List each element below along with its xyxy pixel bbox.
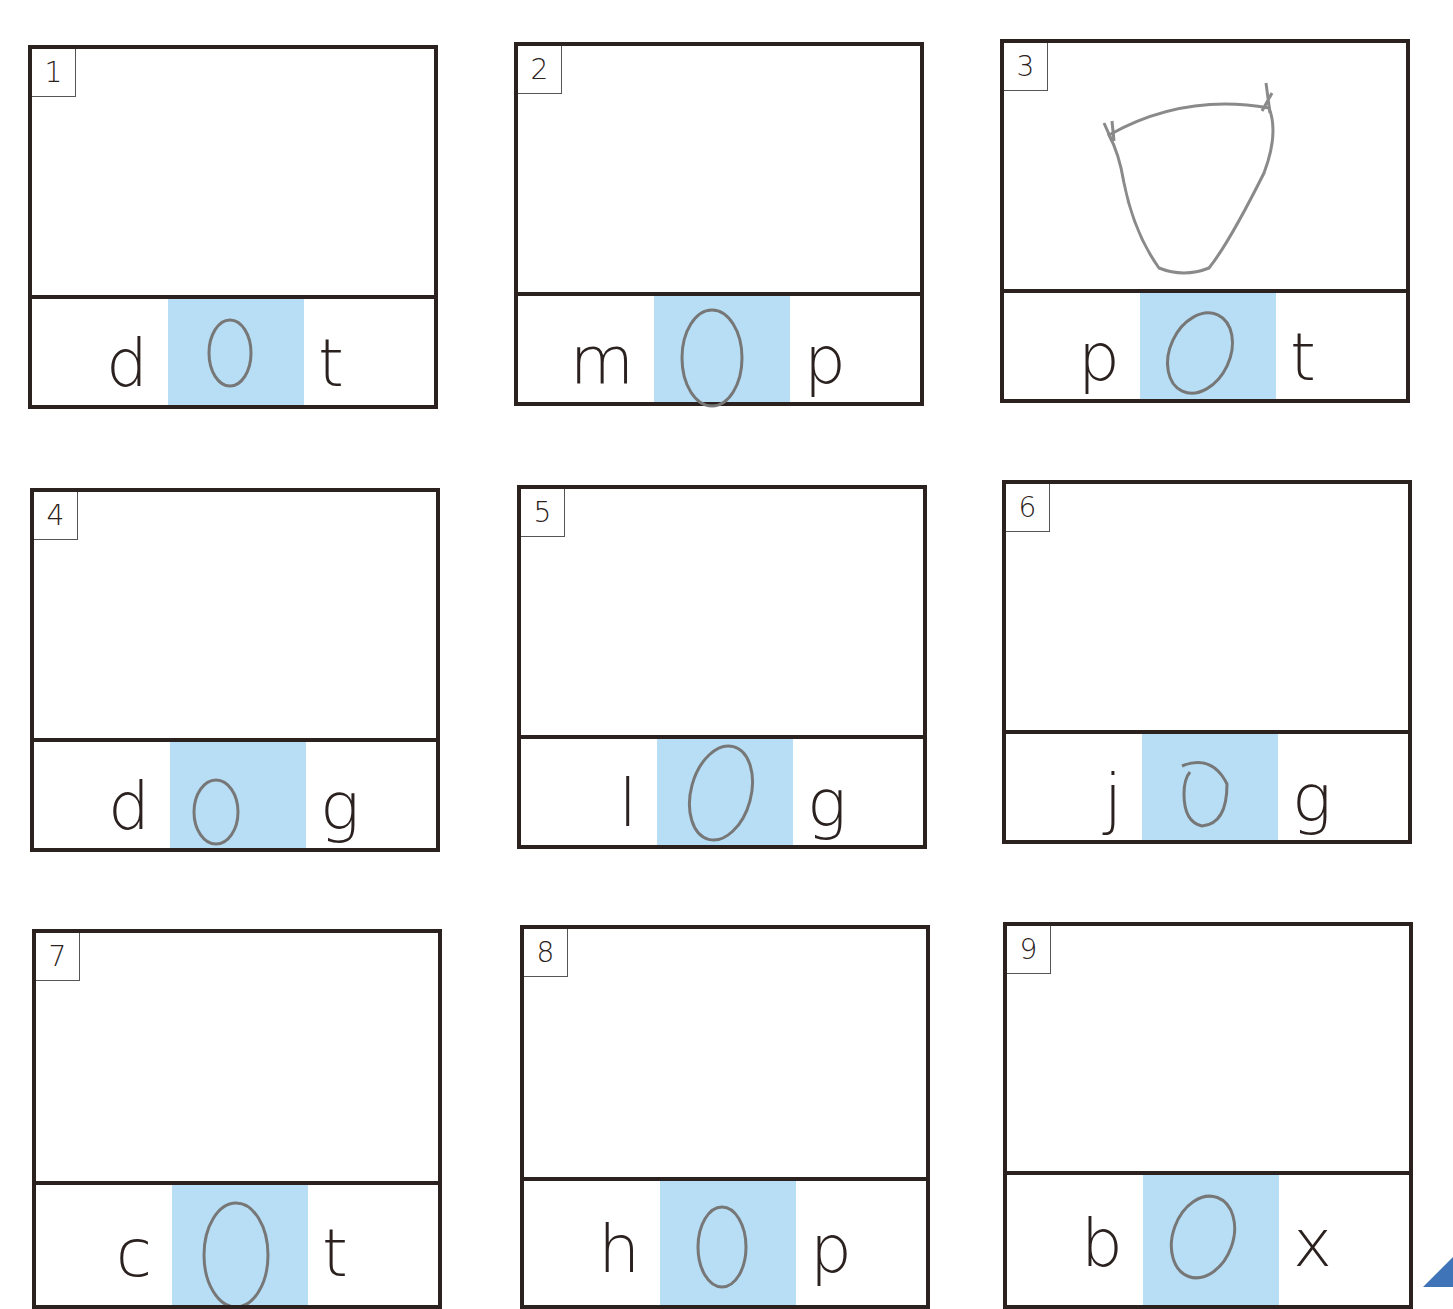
first-letter: d xyxy=(108,774,150,840)
card-number: 9 xyxy=(1007,926,1051,974)
vowel-box[interactable] xyxy=(660,1181,796,1305)
first-letter: h xyxy=(598,1217,640,1283)
vowel-box[interactable] xyxy=(172,1185,308,1305)
word-strip: h p xyxy=(524,1177,926,1305)
pencil-circle-icon xyxy=(172,1185,308,1305)
vowel-box[interactable] xyxy=(170,742,306,848)
last-letter: g xyxy=(320,774,360,840)
card-number: 7 xyxy=(36,933,80,981)
card-number: 8 xyxy=(524,929,568,977)
word-card-5: 5 l g xyxy=(517,485,927,849)
first-letter: p xyxy=(1078,325,1120,391)
last-letter: g xyxy=(1292,766,1332,832)
first-letter: d xyxy=(106,331,148,397)
word-card-6: 6 j g xyxy=(1002,480,1412,844)
drawing-area[interactable] xyxy=(36,933,438,1185)
vowel-box[interactable] xyxy=(168,299,304,405)
word-strip: b x xyxy=(1007,1171,1409,1305)
card-number: 1 xyxy=(32,49,76,97)
vowel-box[interactable] xyxy=(1142,734,1278,840)
word-strip: c t xyxy=(36,1181,438,1305)
word-strip: j g xyxy=(1006,730,1408,840)
first-letter: c xyxy=(116,1221,152,1287)
vowel-box[interactable] xyxy=(657,739,793,845)
pencil-circle-icon xyxy=(1140,293,1276,399)
last-letter: p xyxy=(804,328,846,394)
word-card-8: 8 h p xyxy=(520,925,930,1309)
word-strip: d t xyxy=(32,295,434,405)
last-letter: g xyxy=(807,771,847,837)
drawing-area[interactable] xyxy=(34,492,436,744)
card-number: 6 xyxy=(1006,484,1050,532)
word-card-3: 3 p t xyxy=(1000,39,1410,403)
drawing-area[interactable] xyxy=(521,489,923,741)
pencil-circle-icon xyxy=(170,742,306,848)
drawing-area[interactable] xyxy=(1006,484,1408,736)
word-strip: p t xyxy=(1004,289,1406,399)
first-letter: l xyxy=(619,771,637,837)
card-number: 5 xyxy=(521,489,565,537)
last-letter: t xyxy=(322,1221,348,1287)
word-strip: m p xyxy=(518,292,920,402)
word-strip: l g xyxy=(521,735,923,845)
last-letter: t xyxy=(1290,325,1316,391)
pencil-circle-icon xyxy=(168,299,304,405)
word-card-7: 7 c t xyxy=(32,929,442,1309)
last-letter: x xyxy=(1293,1211,1332,1277)
card-number: 4 xyxy=(34,492,78,540)
pencil-circle-icon xyxy=(660,1181,796,1305)
drawing-area[interactable] xyxy=(1004,43,1406,295)
first-letter: j xyxy=(1104,766,1122,832)
last-letter: t xyxy=(318,331,344,397)
card-number: 3 xyxy=(1004,43,1048,91)
card-number: 2 xyxy=(518,46,562,94)
word-strip: d g xyxy=(34,738,436,848)
pencil-circle-icon xyxy=(1143,1175,1279,1305)
word-card-1: 1 d t xyxy=(28,45,438,409)
drawing-area[interactable] xyxy=(524,929,926,1181)
first-letter: b xyxy=(1081,1211,1123,1277)
drawing-area[interactable] xyxy=(1007,926,1409,1178)
vowel-box[interactable] xyxy=(1140,293,1276,399)
drawing-area[interactable] xyxy=(518,46,920,298)
pot-drawing-icon xyxy=(1004,43,1414,295)
pencil-circle-icon xyxy=(654,296,790,426)
word-card-9: 9 b x xyxy=(1003,922,1413,1309)
word-card-4: 4 d g xyxy=(30,488,440,852)
vowel-box[interactable] xyxy=(654,296,790,402)
vowel-box[interactable] xyxy=(1143,1175,1279,1305)
drawing-area[interactable] xyxy=(32,49,434,301)
word-card-2: 2 m p xyxy=(514,42,924,406)
pencil-circle-icon xyxy=(1142,734,1278,840)
first-letter: m xyxy=(570,328,634,394)
last-letter: p xyxy=(810,1217,852,1283)
pencil-circle-icon xyxy=(657,739,793,845)
page-corner-decoration xyxy=(1423,1257,1453,1287)
